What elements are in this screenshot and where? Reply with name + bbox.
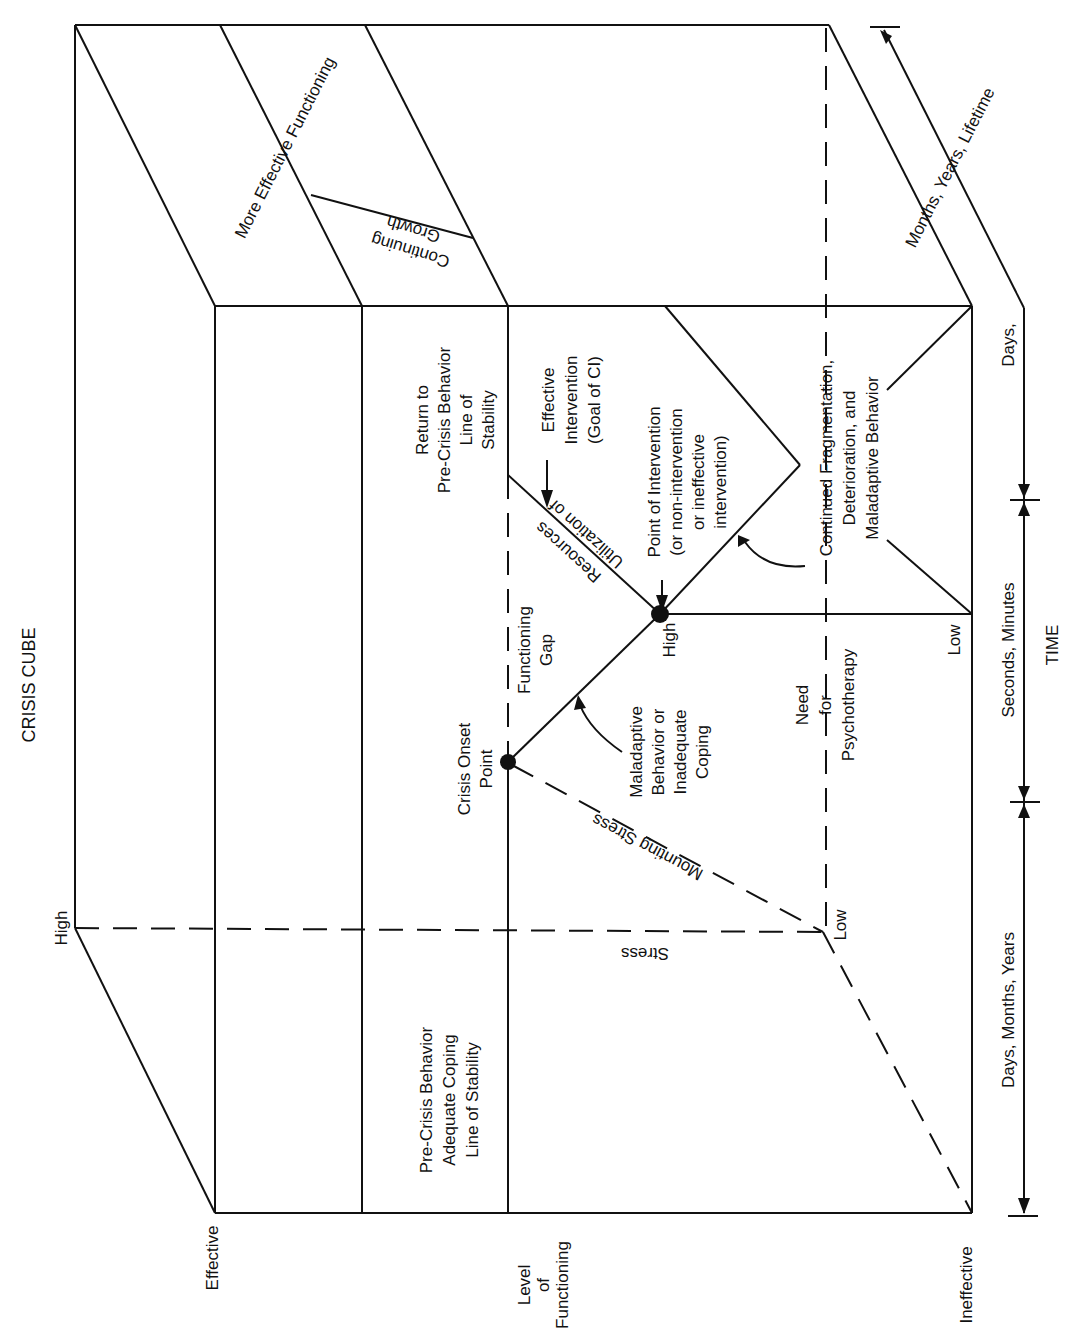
continuing-growth-label: Continuing Growth xyxy=(369,212,452,271)
svg-text:Days,: Days, xyxy=(999,323,1018,366)
more-effective-functioning-label: More Effective Functioning xyxy=(231,54,339,242)
svg-text:Months, Years, Lifetime: Months, Years, Lifetime xyxy=(902,84,999,250)
effective-label: Effective xyxy=(203,1226,222,1291)
svg-text:Crisis Onset: Crisis Onset xyxy=(455,722,474,815)
svg-text:Deterioration, and: Deterioration, and xyxy=(840,390,859,525)
crisis-onset-label: Crisis Onset Point xyxy=(455,722,496,815)
svg-text:Behavior or: Behavior or xyxy=(649,708,668,795)
svg-text:Gap: Gap xyxy=(537,634,556,666)
svg-text:Inadequate: Inadequate xyxy=(671,709,690,794)
need-psychotherapy-label: Need for Psychotherapy xyxy=(793,648,858,761)
svg-text:Coping: Coping xyxy=(693,725,712,779)
time-segment-2: Seconds, Minutes xyxy=(999,582,1018,717)
svg-text:Stability: Stability xyxy=(479,390,498,450)
svg-text:Maladaptive Behavior: Maladaptive Behavior xyxy=(863,376,882,540)
return-to-precrisis-label: Return to Pre-Crisis Behavior Line of St… xyxy=(413,346,498,493)
intervention-high-label: High xyxy=(660,623,679,658)
svg-text:Need: Need xyxy=(793,685,812,726)
svg-text:Level: Level xyxy=(515,1265,534,1306)
point-of-intervention-label: Point of Intervention (or non-interventi… xyxy=(645,406,730,557)
svg-text:(Goal of CI): (Goal of CI) xyxy=(585,356,604,444)
stress-high-label: High xyxy=(52,911,71,946)
maladaptive-label: Maladaptive Behavior or Inadequate Copin… xyxy=(627,706,712,798)
svg-text:Intervention: Intervention xyxy=(562,356,581,445)
stress-low-label: Low xyxy=(831,909,850,941)
intervention-low-label: Low xyxy=(945,624,964,656)
svg-text:of: of xyxy=(534,1278,553,1292)
svg-text:Adequate Coping: Adequate Coping xyxy=(440,1034,459,1165)
svg-text:or ineffective: or ineffective xyxy=(689,434,708,530)
crisis-onset-point xyxy=(500,754,516,770)
svg-text:Maladaptive: Maladaptive xyxy=(627,706,646,798)
time-axis-label: TIME xyxy=(1043,625,1062,666)
level-of-functioning-label: Level of Functioning xyxy=(515,1241,572,1329)
svg-text:Functioning: Functioning xyxy=(515,606,534,694)
time-segment-1: Days, Months, Years xyxy=(999,932,1018,1088)
svg-text:Line of Stability: Line of Stability xyxy=(463,1042,482,1158)
svg-text:for: for xyxy=(816,695,835,715)
svg-text:intervention): intervention) xyxy=(711,435,730,529)
svg-text:Effective: Effective xyxy=(539,368,558,433)
diagram-title: CRISIS CUBE xyxy=(19,627,39,742)
point-of-intervention-marker xyxy=(651,605,669,623)
svg-text:Point: Point xyxy=(477,749,496,788)
effective-intervention-label: Effective Intervention (Goal of CI) xyxy=(539,356,604,445)
continued-fragmentation-label: Continued Fragmentation, Deterioration, … xyxy=(817,360,882,557)
stress-axis-label: Stress xyxy=(621,944,669,963)
svg-text:Continued Fragmentation,: Continued Fragmentation, xyxy=(817,360,836,557)
time-segment-3: Days, Months, Years, Lifetime xyxy=(902,84,1018,366)
ineffective-label: Ineffective xyxy=(957,1246,976,1323)
svg-text:Pre-Crisis Behavior: Pre-Crisis Behavior xyxy=(435,346,454,493)
functioning-gap-label: Functioning Gap xyxy=(515,606,556,694)
svg-text:Return to: Return to xyxy=(413,385,432,455)
svg-text:Point of Intervention: Point of Intervention xyxy=(645,406,664,557)
svg-text:Functioning: Functioning xyxy=(553,1241,572,1329)
svg-text:(or non-intervention: (or non-intervention xyxy=(667,408,686,555)
crisis-cube-diagram: CRISIS CUBE High Effective Ineffective L… xyxy=(0,0,1082,1339)
pre-crisis-label: Pre-Crisis Behavior Adequate Coping Line… xyxy=(417,1026,482,1173)
svg-text:Pre-Crisis Behavior: Pre-Crisis Behavior xyxy=(417,1026,436,1173)
svg-text:Psychotherapy: Psychotherapy xyxy=(839,648,858,761)
mounting-stress-label: Mounting Stress xyxy=(589,810,706,884)
svg-text:Line of: Line of xyxy=(457,394,476,445)
